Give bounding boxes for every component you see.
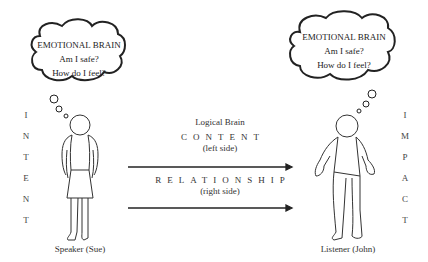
intent-letter: N [19, 189, 33, 210]
listener-thought-text: EMOTIONAL BRAIN Am I safe? How do I feel… [296, 30, 392, 72]
impact-letter: M [398, 126, 412, 147]
listener-thought-line1: Am I safe? [296, 44, 392, 58]
logical-brain-label: Logical Brain [140, 117, 300, 127]
intent-letter: N [19, 126, 33, 147]
speaker-figure [62, 115, 98, 240]
speaker-thought-text: EMOTIONAL BRAIN Am I safe? How do I feel… [36, 38, 122, 80]
relationship-label: RELATIONSHIP [140, 175, 306, 185]
listener-thought-line2: How do I feel? [296, 58, 392, 72]
impact-letter: T [398, 210, 412, 231]
impact-letter: C [398, 189, 412, 210]
impact-letter: A [398, 168, 412, 189]
speaker-thought-bubbles [50, 95, 68, 118]
relationship-sub-label: (right side) [140, 186, 300, 196]
intent-letter: E [19, 168, 33, 189]
content-label: CONTENT [140, 132, 306, 142]
relationship-arrow [128, 205, 292, 211]
content-arrow [128, 164, 292, 170]
impact-letter: P [398, 147, 412, 168]
speaker-caption: Speaker (Sue) [40, 244, 120, 254]
intent-letter: I [19, 105, 33, 126]
intent-letter: T [19, 147, 33, 168]
impact-vertical-label: I M P A C T [398, 105, 412, 231]
listener-caption: Listener (John) [305, 244, 391, 254]
listener-figure [315, 115, 374, 240]
listener-thought-title: EMOTIONAL BRAIN [296, 30, 392, 44]
speaker-thought-line2: How do I feel? [36, 66, 122, 80]
content-sub-label: (left side) [140, 143, 300, 153]
intent-vertical-label: I N T E N T [19, 105, 33, 231]
speaker-thought-line1: Am I safe? [36, 52, 122, 66]
listener-thought-bubbles [357, 90, 376, 113]
impact-letter: I [398, 105, 412, 126]
intent-letter: T [19, 210, 33, 231]
speaker-thought-title: EMOTIONAL BRAIN [36, 38, 122, 52]
